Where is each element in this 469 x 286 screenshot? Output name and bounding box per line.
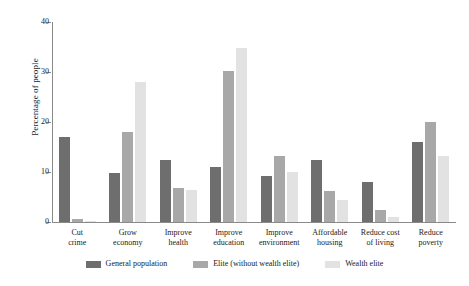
bar: [236, 48, 247, 222]
bar-group: [59, 22, 96, 222]
bar: [85, 221, 96, 222]
bar-group: [210, 22, 247, 222]
bar: [337, 200, 348, 223]
bar-chart: Percentage of people 010203040 CutcrimeG…: [0, 0, 469, 286]
bar: [311, 160, 322, 222]
x-axis-label: Reducepoverty: [394, 228, 468, 247]
bar: [425, 122, 436, 222]
legend-item: Elite (without wealth elite): [193, 259, 299, 269]
legend-swatch: [193, 261, 208, 268]
bar: [109, 173, 120, 222]
y-axis-line: [52, 22, 53, 222]
x-axis-label-line: poverty: [394, 238, 468, 248]
legend-swatch: [86, 261, 101, 268]
y-axis-tick-label: 0: [45, 216, 49, 227]
legend-label: Elite (without wealth elite): [213, 259, 299, 269]
bar: [362, 182, 373, 222]
bar-group: [362, 22, 399, 222]
bar: [375, 210, 386, 222]
bar: [324, 191, 335, 223]
bar-group: [311, 22, 348, 222]
bar: [274, 156, 285, 223]
x-axis-line: [52, 222, 456, 223]
chart-legend: General populationElite (without wealth …: [0, 259, 469, 269]
bar: [186, 190, 197, 223]
bar: [59, 137, 70, 222]
y-axis-tick-label: 40: [41, 16, 49, 27]
bar-group: [261, 22, 298, 222]
plot-area: 010203040 CutcrimeGroweconomyImproveheal…: [52, 22, 456, 222]
x-axis-label-line: Reduce: [394, 228, 468, 238]
y-axis-tick-label: 30: [41, 66, 49, 77]
bar: [160, 160, 171, 222]
legend-swatch: [325, 261, 340, 268]
bar: [438, 156, 449, 223]
y-axis-tick-label: 10: [41, 166, 49, 177]
bar: [412, 142, 423, 222]
bar: [223, 71, 234, 222]
legend-label: Wealth elite: [345, 259, 383, 269]
bar: [388, 217, 399, 222]
y-axis-tick-label: 20: [41, 116, 49, 127]
bar: [287, 172, 298, 222]
bar: [122, 132, 133, 222]
bar: [135, 82, 146, 222]
bar-group: [109, 22, 146, 222]
bar: [72, 219, 83, 223]
bar-group: [412, 22, 449, 222]
legend-item: Wealth elite: [325, 259, 383, 269]
bar-group: [160, 22, 197, 222]
bar: [261, 176, 272, 223]
y-axis-title: Percentage of people: [30, 17, 40, 177]
bar: [173, 188, 184, 222]
bar: [210, 167, 221, 222]
legend-label: General population: [106, 259, 168, 269]
legend-item: General population: [86, 259, 168, 269]
